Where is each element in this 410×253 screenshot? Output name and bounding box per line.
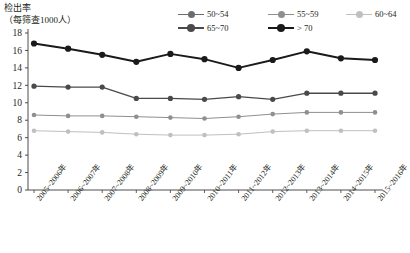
data-point <box>236 65 242 71</box>
data-point <box>236 114 241 119</box>
series-55-59 <box>32 110 378 121</box>
data-point <box>270 112 275 117</box>
data-point <box>304 91 309 96</box>
data-point <box>100 130 105 135</box>
data-point <box>338 91 343 96</box>
data-point <box>202 116 207 121</box>
data-point <box>100 114 105 119</box>
data-point <box>66 85 71 90</box>
data-point <box>202 97 207 102</box>
data-point <box>32 128 37 133</box>
y-axis-tick-label: 10 <box>13 98 23 108</box>
y-axis-tick-label: 12 <box>13 81 23 91</box>
y-axis-tick-label: 2 <box>17 168 22 178</box>
data-point <box>168 115 173 120</box>
data-point <box>100 85 105 90</box>
y-axis-tick-label: 18 <box>13 28 23 38</box>
data-point <box>339 110 344 115</box>
y-axis-tick-label: 14 <box>13 63 23 73</box>
data-point <box>202 133 207 138</box>
data-point <box>373 110 378 115</box>
data-point <box>133 59 139 65</box>
data-point <box>372 91 377 96</box>
data-point <box>32 113 37 118</box>
data-point <box>134 132 139 137</box>
data-point <box>99 52 105 58</box>
data-point <box>31 84 36 89</box>
data-point <box>338 55 344 61</box>
data-point <box>270 57 276 63</box>
y-axis-tick-label: 8 <box>17 115 22 125</box>
data-point <box>168 133 173 138</box>
series-70 <box>31 40 378 71</box>
data-point <box>31 40 37 46</box>
data-point <box>66 114 71 119</box>
data-point <box>236 94 241 99</box>
data-point <box>66 129 71 134</box>
data-point <box>270 97 275 102</box>
data-point <box>134 96 139 101</box>
data-point <box>167 51 173 57</box>
data-point <box>134 114 139 119</box>
data-point <box>270 129 275 134</box>
y-axis-tick-label: 0 <box>17 185 22 195</box>
y-axis-tick-label: 4 <box>17 150 22 160</box>
data-point <box>372 57 378 63</box>
data-point <box>304 48 310 54</box>
series-65-70 <box>31 84 377 102</box>
data-point <box>201 56 207 62</box>
data-point <box>373 128 378 133</box>
data-point <box>236 132 241 137</box>
data-point <box>65 46 71 52</box>
y-axis-tick-label: 16 <box>13 46 23 56</box>
y-axis-tick-label: 6 <box>17 133 22 143</box>
data-point <box>305 110 310 115</box>
data-point <box>339 128 344 133</box>
data-point <box>305 128 310 133</box>
data-point <box>168 96 173 101</box>
series-60-64 <box>32 128 378 137</box>
